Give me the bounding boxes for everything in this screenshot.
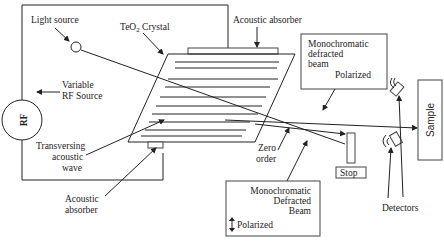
stop-block: [347, 133, 355, 163]
transversing-label-3: wave: [62, 163, 82, 173]
light-source-arrow: [55, 28, 69, 41]
rf-label: RF: [19, 113, 29, 126]
stop-label: Stop: [340, 168, 358, 178]
detectors-label: Detectors: [382, 203, 419, 213]
transversing-label-2: acoustic: [52, 152, 83, 162]
acoustic-absorber-bottom: [148, 142, 163, 148]
acoustic-absorber-bottom-label-2: absorber: [65, 205, 99, 215]
diffracted-beam-to-stop: [255, 124, 345, 134]
detector-bottom-arrow: [388, 148, 391, 198]
acoustic-absorber-top: [188, 48, 278, 54]
light-source-icon: [71, 42, 81, 52]
detector-bottom-icon: [383, 132, 402, 147]
beam-box-top-line1: Monochromatic: [308, 39, 369, 49]
beam-box-bottom-line2: Defracted: [274, 196, 312, 206]
rf-source: RF: [2, 100, 42, 140]
transversing-label-1: Transversing: [36, 141, 86, 151]
beam-box-top: Monochromatic defracted beam Polarized: [301, 34, 387, 89]
beam-box-top-arrow: [323, 89, 335, 110]
sample-label: Sample: [425, 103, 436, 137]
variable-rf-label-2: RF Source: [62, 91, 102, 101]
zero-order-arrow: [278, 128, 289, 150]
beam-box-bottom-line3: Beam: [289, 206, 312, 216]
beam-box-top-polarized: Polarized: [335, 70, 371, 80]
teo2-crystal: [128, 54, 295, 142]
beam-box-bottom-arrow: [287, 141, 307, 181]
beam-box-top-line3: beam: [308, 59, 329, 69]
absorber-bottom-arrow: [105, 148, 156, 196]
beam-box-bottom: Monochromatic Defracted Beam Polarized: [226, 181, 320, 236]
beam-box-top-line2: defracted: [308, 49, 344, 59]
diffracted-beam-to-sample: [225, 120, 417, 128]
beam-box-bottom-line1: Monochromatic: [250, 186, 311, 196]
zero-order-label-2: order: [256, 154, 277, 164]
detector-top-arrow: [399, 96, 403, 197]
zero-order-label-1: Zero: [258, 143, 276, 153]
light-source-label: Light source: [31, 15, 79, 25]
acoustic-wave-arrow: [86, 120, 164, 155]
crystal-label: TeO2 Crystal: [120, 22, 170, 34]
aotf-diagram: RF Variable RF Source Light source TeO2 …: [0, 0, 444, 244]
detector-top-icon: [390, 78, 404, 96]
acoustic-absorber-top-label: Acoustic absorber: [233, 15, 303, 25]
beam-box-bottom-polarized: Polarized: [237, 220, 273, 230]
crystal-arrow: [143, 33, 163, 54]
acoustic-absorber-bottom-label-1: Acoustic: [65, 194, 99, 204]
variable-rf-label-1: Variable: [62, 80, 94, 90]
